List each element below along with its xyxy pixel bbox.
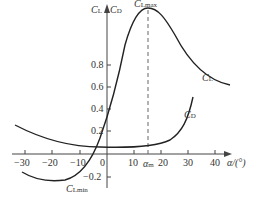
y-tick-label: 0.4 [91, 104, 104, 114]
clmax-label: CLmax [134, 0, 157, 9]
y-axis-label-cd: CD [110, 5, 122, 15]
y-ticks [107, 65, 111, 177]
y-tick-label: −0.2 [83, 172, 101, 182]
clmin-label: CLmin [66, 184, 88, 194]
cl-curve [22, 8, 230, 181]
y-axis-label-cl: CL [91, 5, 102, 15]
cl-curve-label: CL [202, 73, 213, 83]
cd-curve [15, 97, 193, 147]
y-tick-label: 0.2 [91, 126, 104, 136]
x-tick-label: −30 [14, 158, 30, 168]
y-tick-label: 0.8 [91, 60, 104, 70]
x-tick-label: 0 [100, 158, 105, 168]
x-tick-label: 10 [128, 158, 138, 168]
alpha-m-label: αm [143, 159, 154, 169]
y-tick-label: 0.6 [91, 82, 104, 92]
x-tick-label: 20 [158, 158, 168, 168]
x-axis-label: α/(°) [227, 158, 246, 168]
cd-curve-label: CD [184, 110, 196, 120]
x-tick-label: 40 [210, 158, 220, 168]
chart-canvas [0, 0, 259, 204]
x-tick-label: −20 [42, 158, 58, 168]
x-ticks [25, 150, 215, 154]
x-tick-label: −10 [70, 158, 86, 168]
x-tick-label: 30 [183, 158, 193, 168]
